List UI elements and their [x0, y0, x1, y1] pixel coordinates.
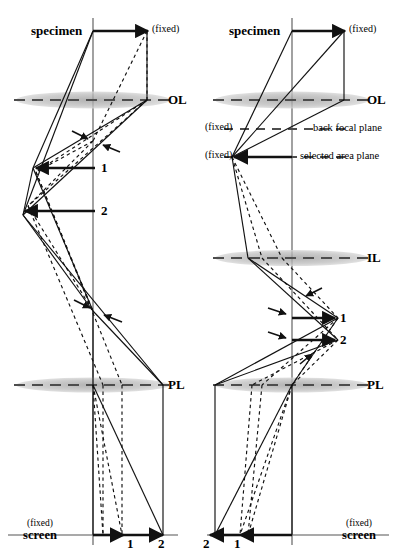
figure-canvas: specimen (fixed) OL PL 1 2 1 2 (fixed) s…: [0, 0, 397, 559]
bfp-fixed-label: (fixed): [205, 122, 232, 132]
specimen-fixed-label-right: (fixed): [349, 24, 376, 34]
screen-text-label-right: screen: [329, 528, 389, 543]
back-focal-plane-label: back focal plane: [313, 123, 382, 134]
screen-fixed-label-left: (fixed): [10, 518, 70, 528]
specimen-label-left: specimen: [31, 24, 82, 37]
ol-label-right: OL: [367, 93, 386, 106]
screen-label-group-left: (fixed) screen: [10, 518, 70, 543]
image-marker-2-right: 2: [340, 333, 347, 346]
specimen-label-right: specimen: [229, 24, 280, 37]
screen-text-label-left: screen: [10, 528, 70, 543]
screen-fixed-label-right: (fixed): [329, 518, 389, 528]
screen-marker-2-right: 2: [203, 537, 210, 550]
il-label-right: IL: [367, 251, 381, 264]
screen-label-group-right: (fixed) screen: [329, 518, 389, 543]
sap-fixed-label: (fixed): [205, 150, 232, 160]
ol-label-left: OL: [168, 93, 187, 106]
image-marker-2-left: 2: [101, 204, 108, 217]
pl-label-left: PL: [168, 378, 185, 391]
pl-label-right: PL: [367, 378, 384, 391]
lens-ol-right: [213, 92, 371, 109]
image-marker-1-right: 1: [340, 311, 347, 324]
screen-marker-1-right: 1: [234, 537, 241, 550]
screen-marker-1-left: 1: [127, 537, 134, 550]
image-marker-1-left: 1: [101, 161, 108, 174]
right-panel-diffraction-mode: [0, 0, 397, 559]
screen-marker-2-left: 2: [158, 537, 165, 550]
specimen-fixed-label-left: (fixed): [152, 24, 179, 34]
lens-il-right: [213, 250, 371, 266]
selected-area-plane-label: selected area plane: [300, 151, 379, 162]
